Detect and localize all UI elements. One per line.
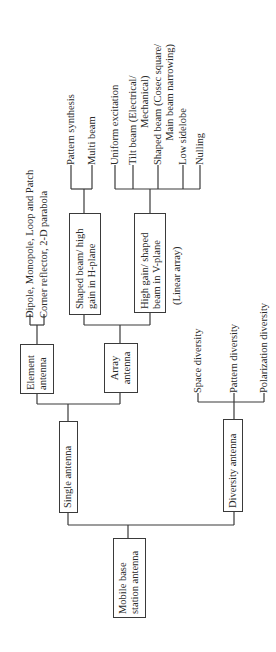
diversity-antenna-label: Diversity antenna [227, 434, 239, 508]
h-leaf-multi-beam: Multi beam [86, 116, 98, 165]
array-antenna-label: Array antenna [109, 346, 133, 390]
v-plane-label: High gain/ shaped beam in V-plane [139, 233, 163, 309]
antenna-classification-diagram: Mobile base station antenna Single anten… [0, 0, 276, 652]
root-node-label: Mobile base station antenna [117, 540, 141, 614]
diversity-leaf-space: Space diversity [192, 329, 204, 393]
v-plane-note: (Linear array) [171, 246, 183, 305]
v-leaf-nulling: Nulling [194, 133, 206, 165]
v-leaf-uniform-excitation: Uniform excitation [109, 85, 121, 165]
element-leaf-corner-reflector: Corner reflector, 2-D parabola [38, 191, 50, 318]
v-leaf-tilt-beam: Tilt beam (Electrical/ Mechanical) [127, 76, 151, 165]
v-leaf-low-sidelobe: Low sidelobe [177, 108, 189, 165]
element-antenna-label: Element antenna [25, 355, 49, 390]
h-leaf-pattern-synthesis: Pattern synthesis [65, 94, 77, 165]
h-plane-label: Shaped beam/ high gain in H-plane [74, 229, 98, 309]
single-antenna-label: Single antenna [62, 446, 74, 508]
diversity-leaf-pattern: Pattern diversity [228, 324, 240, 393]
element-leaf-dipole: Dipole, Monopole, Loop and Patch [24, 170, 36, 318]
diversity-leaf-polarization: Polarization diversity [258, 303, 270, 393]
v-leaf-shaped-beam: Shaped beam (Cosec square/ Main beam nar… [152, 44, 176, 165]
